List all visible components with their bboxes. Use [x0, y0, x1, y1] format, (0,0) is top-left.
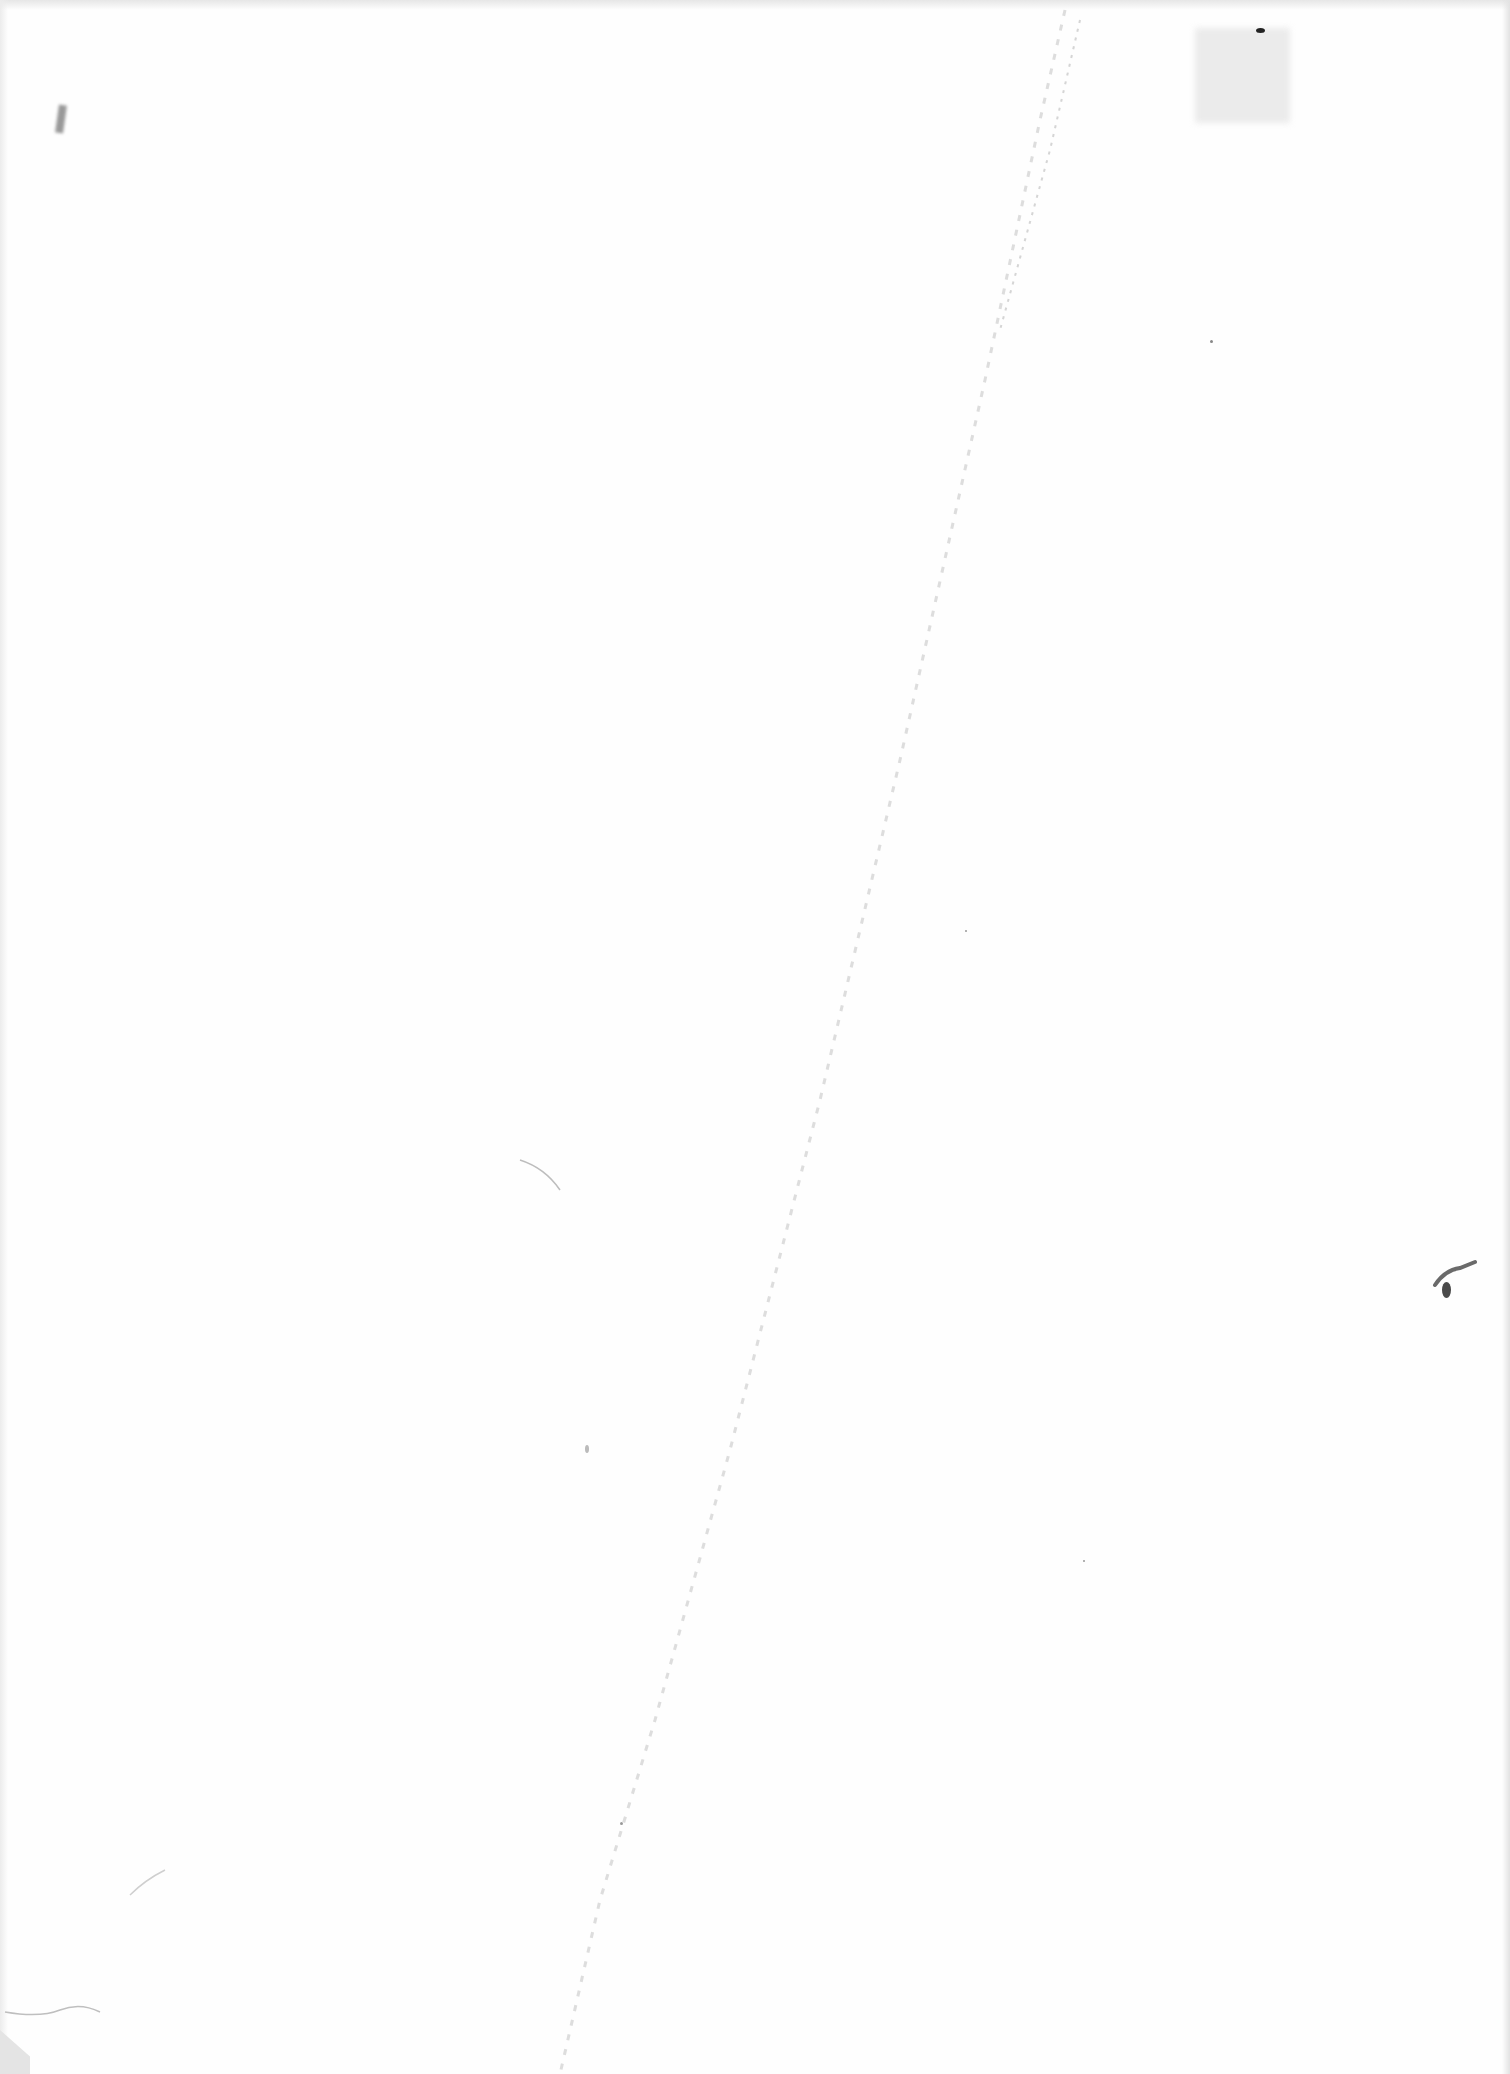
dust-speck: [965, 930, 967, 932]
ink-speck: [1256, 28, 1265, 33]
diagonal-crease-mark: [0, 0, 1510, 2074]
dust-speck: [1083, 1560, 1085, 1562]
ink-blot: [1442, 1282, 1451, 1298]
dust-speck: [620, 1822, 623, 1825]
dust-speck: [1210, 340, 1213, 343]
dust-speck: [585, 1445, 589, 1453]
scan-smudge: [1195, 28, 1290, 123]
scanned-blank-page: [0, 0, 1510, 2074]
